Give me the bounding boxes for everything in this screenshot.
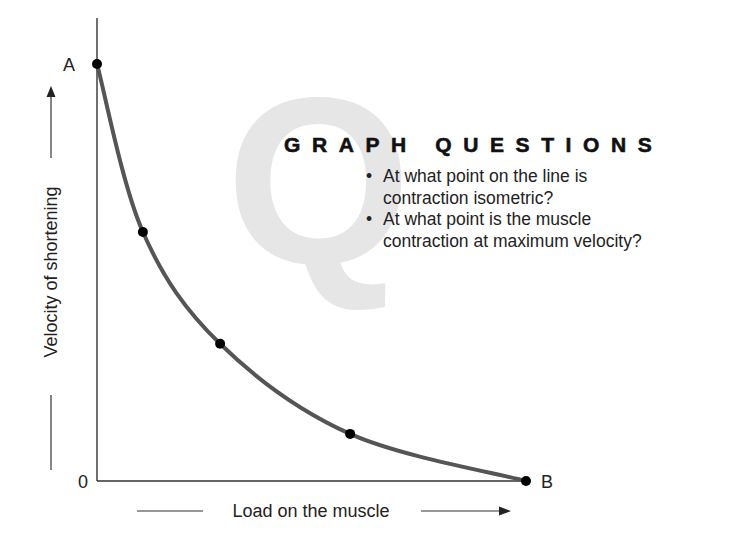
point-label-a: A xyxy=(63,55,75,75)
x-axis-title: Load on the muscle xyxy=(232,501,389,521)
arrow-up-icon xyxy=(47,86,56,97)
question-text-line: contraction isometric? xyxy=(383,188,642,210)
graph-questions-title: GRAPH QUESTIONS xyxy=(284,133,663,157)
arrow-right-icon xyxy=(499,507,511,516)
question-item: • At what point is the muscle contractio… xyxy=(366,209,642,252)
origin-label: 0 xyxy=(78,472,88,492)
question-text-line: At what point on the line is xyxy=(383,166,642,188)
bullet-icon: • xyxy=(366,166,372,188)
y-axis-title: Velocity of shortening xyxy=(41,186,61,357)
data-point-marker xyxy=(345,429,355,439)
question-list: • At what point on the line is contracti… xyxy=(366,166,642,252)
question-text-line: At what point is the muscle xyxy=(383,209,642,231)
x-axis-title-group: Load on the muscle xyxy=(137,501,511,521)
data-point-marker xyxy=(138,227,148,237)
point-label-b: B xyxy=(541,472,553,492)
data-point-marker xyxy=(215,339,225,349)
y-axis-title-group: Velocity of shortening xyxy=(41,86,61,470)
question-text-line: contraction at maximum velocity? xyxy=(383,231,642,253)
bullet-icon: • xyxy=(366,209,372,231)
data-point-marker xyxy=(92,59,102,69)
question-item: • At what point on the line is contracti… xyxy=(366,166,642,209)
data-point-marker xyxy=(521,476,531,486)
